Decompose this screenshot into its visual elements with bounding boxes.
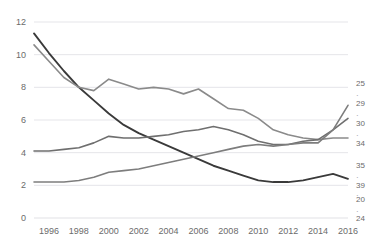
y-tick-label: 0 <box>4 213 26 223</box>
y-tick-label: 12 <box>4 17 26 27</box>
series-line-series-mid-gray <box>34 118 348 151</box>
right-tick-label: 25 <box>356 79 376 88</box>
y-tick-label: 6 <box>4 115 26 125</box>
y-tick-label: 4 <box>4 148 26 158</box>
series-line-series-dark <box>34 33 348 182</box>
gridlines <box>34 22 348 218</box>
right-tick-label: 29 <box>356 99 376 108</box>
chart-plot-area <box>0 0 378 246</box>
right-tick-label: 24 <box>356 214 376 223</box>
right-tick-label: 34 <box>356 139 376 148</box>
y-tick-label: 2 <box>4 180 26 190</box>
y-tick-label: 10 <box>4 50 26 60</box>
series-lines <box>34 33 348 182</box>
y-tick-label: 8 <box>4 82 26 92</box>
series-line-series-bottom-gray <box>34 105 348 182</box>
x-tick-label: 2016 <box>328 226 368 236</box>
line-chart: 121086420 199619982000200220042006200820… <box>0 0 378 246</box>
right-tick-label: 30 <box>356 119 376 128</box>
right-tick-label: 35 <box>356 161 376 170</box>
right-tick-label: 39 <box>356 181 376 190</box>
right-tick-label: 20 <box>356 195 376 204</box>
series-line-series-upper-gray <box>34 45 348 140</box>
